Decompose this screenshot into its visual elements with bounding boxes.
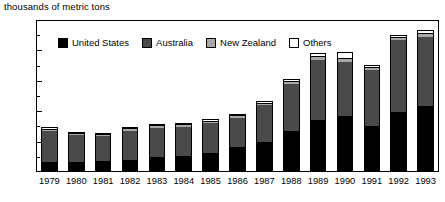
bar-segment-united-states bbox=[364, 126, 381, 172]
bar-segment-united-states bbox=[417, 106, 434, 172]
x-axis-tick-label: 1983 bbox=[147, 176, 168, 186]
bar-segment-united-states bbox=[202, 153, 219, 172]
bar-column[interactable] bbox=[68, 132, 85, 172]
bar-segment-united-states bbox=[337, 116, 354, 172]
bar-segment-australia bbox=[310, 60, 327, 120]
bar-segment-australia bbox=[68, 135, 85, 162]
bar-segment-united-states bbox=[41, 162, 58, 172]
bar-segment-australia bbox=[175, 127, 192, 156]
legend-item-label: Australia bbox=[156, 38, 193, 48]
legend-item-label: New Zealand bbox=[220, 38, 276, 48]
legend-item[interactable]: Others bbox=[289, 38, 332, 48]
bar-column[interactable] bbox=[256, 101, 273, 172]
bar-segment-united-states bbox=[229, 147, 246, 172]
bar-segment-united-states bbox=[256, 142, 273, 172]
x-axis-tick-label: 1981 bbox=[93, 176, 114, 186]
bar-column[interactable] bbox=[337, 52, 354, 172]
bar-segment-australia bbox=[256, 105, 273, 141]
bar-segment-australia bbox=[95, 136, 112, 161]
bar-column[interactable] bbox=[310, 53, 327, 172]
x-axis-tick-label: 1989 bbox=[308, 176, 329, 186]
bar-segment-australia bbox=[390, 40, 407, 112]
x-axis-tick-label: 1987 bbox=[254, 176, 275, 186]
x-axis-tick-label: 1991 bbox=[361, 176, 382, 186]
bar-column[interactable] bbox=[149, 124, 166, 172]
bar-column[interactable] bbox=[122, 127, 139, 172]
x-axis-tick-label: 1979 bbox=[39, 176, 60, 186]
bar-segment-australia bbox=[337, 62, 354, 117]
bar-segment-united-states bbox=[122, 160, 139, 172]
stacked-bar-chart: thousands of metric tons 010020030040050… bbox=[0, 0, 445, 202]
legend-item[interactable]: Australia bbox=[142, 38, 193, 48]
x-axis-tick-label: 1984 bbox=[173, 176, 194, 186]
bar-segment-united-states bbox=[283, 131, 300, 172]
legend-swatch-black-icon bbox=[58, 38, 68, 48]
legend-swatch-light-gray-icon bbox=[206, 38, 216, 48]
legend-item-label: Others bbox=[303, 38, 332, 48]
bar-segment-united-states bbox=[149, 157, 166, 172]
bar-segment-united-states bbox=[390, 112, 407, 172]
bar-segment-australia bbox=[417, 37, 434, 105]
legend-swatch-white-icon bbox=[289, 38, 299, 48]
bar-segment-united-states bbox=[175, 156, 192, 172]
x-axis-tick-label: 1986 bbox=[227, 176, 248, 186]
x-axis-tick-label: 1992 bbox=[388, 176, 409, 186]
x-axis-tick-label: 1982 bbox=[120, 176, 141, 186]
bar-segment-united-states bbox=[95, 161, 112, 172]
bar-segment-australia bbox=[149, 128, 166, 157]
legend-item[interactable]: New Zealand bbox=[206, 38, 276, 48]
x-axis-tick-label: 1990 bbox=[335, 176, 356, 186]
bar-column[interactable] bbox=[390, 35, 407, 172]
bar-segment-australia bbox=[122, 131, 139, 160]
bar-segment-united-states bbox=[310, 120, 327, 172]
x-axis-tick-label: 1980 bbox=[66, 176, 87, 186]
bar-segment-australia bbox=[283, 84, 300, 131]
x-axis-tick-label: 1985 bbox=[200, 176, 221, 186]
bar-segment-australia bbox=[364, 70, 381, 127]
bar-column[interactable] bbox=[283, 79, 300, 172]
x-axis-tick-label: 1993 bbox=[415, 176, 436, 186]
bar-column[interactable] bbox=[229, 114, 246, 172]
legend-item-label: United States bbox=[72, 38, 129, 48]
bar-segment-australia bbox=[229, 118, 246, 147]
bar-column[interactable] bbox=[364, 65, 381, 172]
bar-column[interactable] bbox=[175, 123, 192, 172]
legend-item[interactable]: United States bbox=[58, 38, 129, 48]
bar-column[interactable] bbox=[95, 133, 112, 172]
legend-swatch-dark-gray-icon bbox=[142, 38, 152, 48]
bar-column[interactable] bbox=[202, 119, 219, 172]
bar-column[interactable] bbox=[417, 30, 434, 172]
bar-segment-australia bbox=[41, 131, 58, 162]
x-axis-tick-label: 1988 bbox=[281, 176, 302, 186]
bar-column[interactable] bbox=[41, 127, 58, 172]
bar-segment-australia bbox=[202, 123, 219, 153]
chart-legend: United StatesAustraliaNew ZealandOthers bbox=[58, 38, 345, 48]
y-axis-caption: thousands of metric tons bbox=[4, 1, 110, 12]
bar-segment-united-states bbox=[68, 162, 85, 172]
